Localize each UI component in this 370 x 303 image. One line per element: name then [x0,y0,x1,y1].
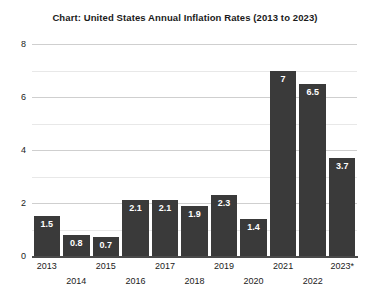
y-axis: 02468 [0,0,26,303]
y-tick-label: 4 [4,146,26,155]
x-tick-label: 2023* [322,261,362,271]
y-tick-label: 0 [4,252,26,261]
x-tick-label: 2021 [263,261,303,271]
y-tick-label: 2 [4,199,26,208]
x-tick-label: 2015 [86,261,126,271]
bar[interactable] [270,71,297,257]
x-axis: 2013201420152016201720182019202020212022… [32,256,358,303]
bar-value-label: 2.1 [122,203,149,213]
bar[interactable] [329,158,356,256]
bar-value-label: 3.7 [329,161,356,171]
x-tick-label: 2014 [56,276,96,286]
bar-value-label: 2.1 [152,203,179,213]
bar[interactable] [299,84,326,256]
bar-value-label: 1.5 [34,219,61,229]
x-tick-label: 2017 [145,261,185,271]
bar-value-label: 0.7 [93,240,120,250]
inflation-bar-chart: Chart: United States Annual Inflation Ra… [0,0,370,303]
x-tick-label: 2022 [293,276,333,286]
y-tick-label: 8 [4,40,26,49]
x-tick-label: 2016 [115,276,155,286]
x-tick-label: 2013 [27,261,67,271]
bar-value-label: 1.9 [181,209,208,219]
bar-value-label: 7 [270,74,297,84]
bar-value-label: 0.8 [63,238,90,248]
bar-value-label: 1.4 [240,222,267,232]
x-tick-label: 2019 [204,261,244,271]
x-tick-label: 2018 [175,276,215,286]
y-tick-label: 6 [4,93,26,102]
bar-value-label: 2.3 [211,198,238,208]
bar-value-label: 6.5 [299,87,326,97]
x-tick-label: 2020 [234,276,274,286]
